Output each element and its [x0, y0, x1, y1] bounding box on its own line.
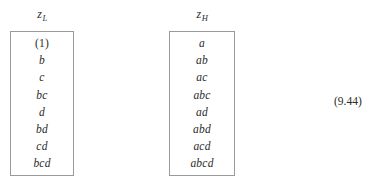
list-item: ac: [170, 72, 234, 84]
list-item: abd: [170, 124, 234, 136]
list-item: d: [11, 107, 73, 119]
list-item: abc: [170, 90, 234, 102]
list-item: acd: [170, 141, 234, 153]
column-header-subscript: H: [202, 13, 208, 23]
list-item: b: [11, 55, 73, 67]
list-item: bcd: [11, 158, 73, 170]
column-header-symbol: z: [197, 7, 202, 21]
column-header-z-low: zL: [10, 0, 74, 31]
list-item: bd: [11, 124, 73, 136]
list-item: cd: [11, 141, 73, 153]
equation-number: (9.44): [334, 95, 362, 107]
equation-figure: zL (1) b c bc d bd cd bcd zH a ab ac abc…: [0, 0, 385, 186]
list-item: a: [170, 38, 234, 50]
column-header-z-high: zH: [169, 0, 235, 31]
list-item: ab: [170, 55, 234, 67]
column-z-low: zL (1) b c bc d bd cd bcd: [10, 0, 74, 176]
list-item: bc: [11, 90, 73, 102]
list-item: ad: [170, 107, 234, 119]
column-header-subscript: L: [42, 13, 47, 23]
list-box-z-low: (1) b c bc d bd cd bcd: [10, 31, 74, 176]
list-item: abcd: [170, 158, 234, 170]
list-item: c: [11, 72, 73, 84]
column-z-high: zH a ab ac abc ad abd acd abcd: [169, 0, 235, 176]
list-box-z-high: a ab ac abc ad abd acd abcd: [169, 31, 235, 176]
list-item: (1): [11, 38, 73, 50]
